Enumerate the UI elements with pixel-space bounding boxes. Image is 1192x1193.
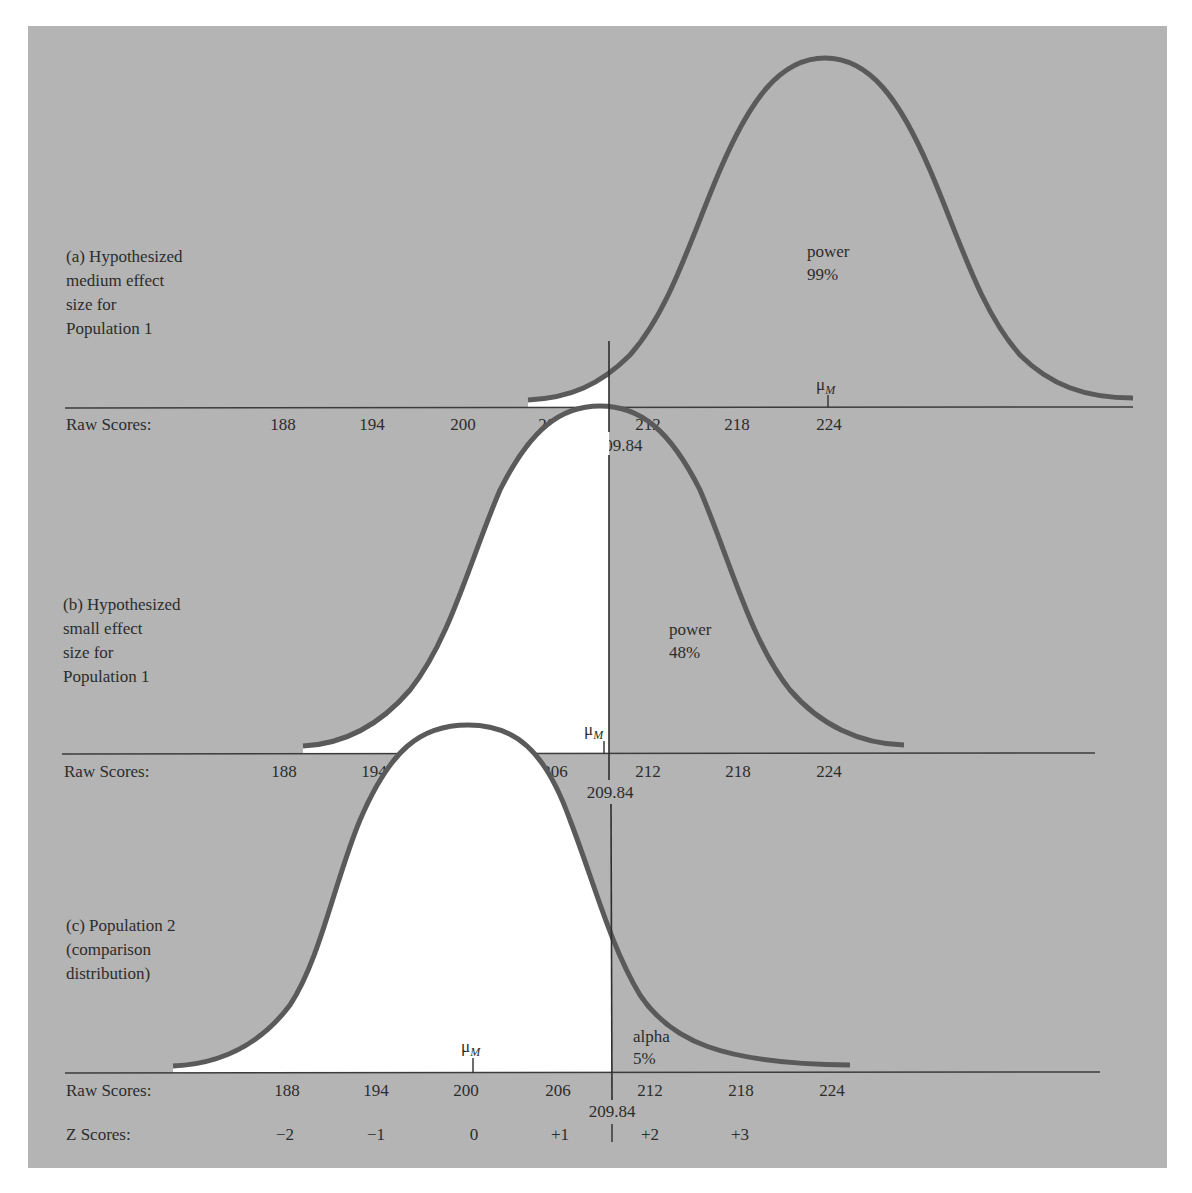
svg-text:224: 224 — [816, 762, 842, 781]
power-diagram: μM (a) Hypothesized medium effect size f… — [0, 0, 1192, 1193]
panel-c-cutoff-label: 209.84 — [589, 1102, 636, 1121]
svg-text:200: 200 — [453, 1081, 479, 1100]
svg-text:200: 200 — [450, 415, 476, 434]
z-scores-label: Z Scores: — [66, 1125, 131, 1144]
svg-text:0: 0 — [470, 1125, 479, 1144]
svg-text:212: 212 — [635, 762, 661, 781]
svg-text:212: 212 — [637, 1081, 663, 1100]
svg-text:188: 188 — [274, 1081, 300, 1100]
panel-b-axis — [62, 753, 1095, 754]
svg-text:+1: +1 — [551, 1125, 569, 1144]
svg-text:194: 194 — [359, 415, 385, 434]
svg-text:224: 224 — [819, 1081, 845, 1100]
svg-text:218: 218 — [728, 1081, 754, 1100]
panel-c-raw-label: Raw Scores: — [66, 1081, 151, 1100]
svg-text:224: 224 — [816, 415, 842, 434]
svg-text:218: 218 — [724, 415, 750, 434]
svg-text:188: 188 — [271, 762, 297, 781]
panel-a-raw-label: Raw Scores: — [66, 415, 151, 434]
svg-text:206: 206 — [545, 1081, 571, 1100]
svg-text:+2: +2 — [641, 1125, 659, 1144]
cutoff-line-c — [611, 804, 612, 1100]
panel-b-cutoff-label: 209.84 — [587, 783, 634, 802]
svg-text:218: 218 — [725, 762, 751, 781]
panel-c-axis — [65, 1072, 1100, 1073]
svg-text:−1: −1 — [367, 1125, 385, 1144]
svg-text:188: 188 — [270, 415, 296, 434]
svg-text:194: 194 — [363, 1081, 389, 1100]
svg-text:−2: −2 — [276, 1125, 294, 1144]
svg-text:+3: +3 — [731, 1125, 749, 1144]
panel-b-raw-label: Raw Scores: — [64, 762, 149, 781]
